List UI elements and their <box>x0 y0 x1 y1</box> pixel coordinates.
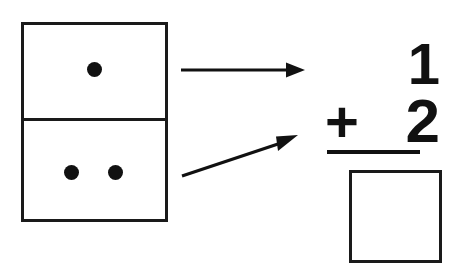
equation-rule-line <box>327 150 420 154</box>
arrow-right-icon <box>181 63 305 78</box>
domino-pip-top-1 <box>87 62 102 77</box>
equation-plus-operator: + <box>325 93 359 151</box>
domino-pip-bottom-1 <box>64 165 79 180</box>
arrow-up-right-icon <box>182 135 298 176</box>
addition-equation: 1 + 2 <box>315 35 445 160</box>
equation-addend-top: 1 <box>408 35 440 93</box>
worksheet-canvas: 1 + 2 <box>0 0 474 277</box>
equation-addend-bottom: 2 <box>406 90 440 152</box>
domino-divider-line <box>21 118 168 121</box>
domino-pip-bottom-2 <box>108 165 123 180</box>
domino-tile <box>21 22 168 222</box>
answer-value <box>352 173 439 260</box>
answer-box[interactable] <box>349 170 442 263</box>
